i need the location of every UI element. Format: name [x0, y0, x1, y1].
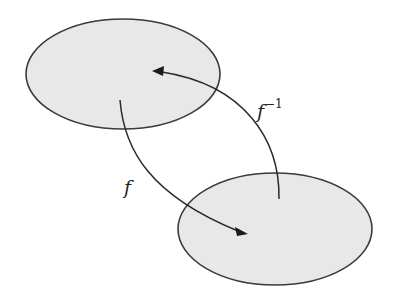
function-inverse-diagram: f f−1	[0, 0, 396, 306]
f-inverse-label: f−1	[257, 100, 283, 122]
f-inverse-base-text: f	[257, 100, 264, 122]
diagram-svg	[0, 0, 396, 306]
f-label-text: f	[124, 176, 131, 198]
codomain-set-ellipse	[178, 173, 372, 285]
f-label: f	[124, 176, 131, 198]
domain-set-ellipse	[26, 19, 220, 129]
f-inverse-exponent-text: −1	[265, 97, 283, 111]
